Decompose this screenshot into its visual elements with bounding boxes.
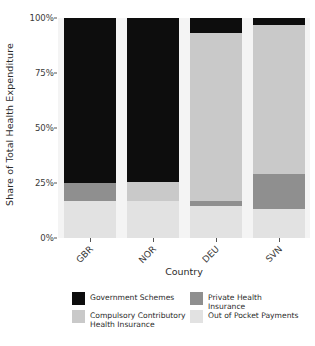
- bar-segment: [127, 18, 179, 182]
- chart-figure: Share of Total Health Expenditure 0%25%5…: [0, 0, 315, 346]
- y-axis-tick-mark: [54, 238, 57, 239]
- y-axis-tick-mark: [54, 128, 57, 129]
- bar-segment: [127, 182, 179, 201]
- legend-item[interactable]: Government Schemes: [72, 292, 174, 305]
- x-axis-tick-mark: [216, 238, 217, 242]
- bar-segment: [64, 201, 116, 238]
- legend-swatch-icon: [190, 310, 203, 323]
- bar-segment: [190, 18, 242, 33]
- legend-item[interactable]: Private Health Insurance: [190, 292, 300, 311]
- legend-swatch-icon: [72, 310, 85, 323]
- chart-legend: Government SchemesCompulsory Contributor…: [72, 292, 300, 338]
- bar-svn: [253, 18, 305, 238]
- bar-segment: [127, 201, 179, 238]
- bar-segment: [64, 183, 116, 201]
- x-axis-tick-mark: [153, 238, 154, 242]
- legend-item[interactable]: Out of Pocket Payments: [190, 310, 298, 323]
- x-axis-tick-mark: [90, 238, 91, 242]
- y-axis-tick-mark: [54, 18, 57, 19]
- legend-item-label: Compulsory Contributory Health Insurance: [90, 310, 186, 329]
- legend-swatch-icon: [190, 292, 203, 305]
- bar-segment: [253, 18, 305, 25]
- bar-segment: [64, 18, 116, 183]
- y-axis-tick-label: 25%: [18, 178, 54, 188]
- bar-segment: [190, 201, 242, 207]
- y-axis-tick-mark: [54, 183, 57, 184]
- bar-segment: [253, 25, 305, 175]
- bar-nor: [127, 18, 179, 238]
- plot-panel: [58, 18, 310, 238]
- y-axis-tick-mark: [54, 73, 57, 74]
- legend-item[interactable]: Compulsory Contributory Health Insurance: [72, 310, 186, 329]
- y-axis-tick-labels: 0%25%50%75%100%: [18, 0, 54, 248]
- bar-segment: [253, 174, 305, 209]
- y-axis-title: Share of Total Health Expenditure: [0, 0, 18, 248]
- legend-item-label: Government Schemes: [90, 292, 174, 302]
- y-axis-tick-label: 0%: [18, 233, 54, 243]
- bar-segment: [190, 33, 242, 200]
- bar-segment: [190, 206, 242, 238]
- x-axis-title: Country: [58, 266, 310, 277]
- legend-item-label: Out of Pocket Payments: [208, 310, 298, 320]
- x-axis-tick-mark: [279, 238, 280, 242]
- bar-deu: [190, 18, 242, 238]
- bar-segment: [253, 209, 305, 238]
- y-axis-tick-label: 50%: [18, 123, 54, 133]
- bar-gbr: [64, 18, 116, 238]
- y-axis-title-label: Share of Total Health Expenditure: [4, 43, 15, 206]
- legend-swatch-icon: [72, 292, 85, 305]
- legend-item-label: Private Health Insurance: [208, 292, 300, 311]
- y-axis-tick-label: 100%: [18, 13, 54, 23]
- y-axis-tick-label: 75%: [18, 68, 54, 78]
